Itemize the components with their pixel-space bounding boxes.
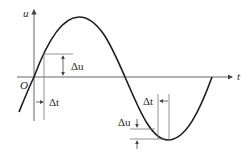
right-delta-u-label: Δu [118, 116, 131, 128]
left-delta-u-label: Δu [71, 60, 84, 72]
t-axis-label: t [237, 70, 241, 82]
sine-diagram: u t O Δu Δt Δt Δu [0, 0, 246, 158]
origin-label: O [20, 79, 28, 91]
u-axis-label: u [23, 7, 29, 19]
left-delta-t-label: Δt [49, 96, 59, 108]
left-annotation [36, 54, 73, 120]
right-delta-t-label: Δt [143, 95, 153, 107]
sine-curve [19, 17, 212, 140]
